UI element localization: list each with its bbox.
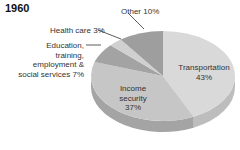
label-education-line2: training,	[18, 51, 84, 61]
label-transportation-value: 43%	[172, 73, 236, 83]
label-education: Education, training, employment & social…	[18, 41, 84, 79]
label-income-value: 37%	[110, 103, 156, 113]
label-income-name2: security	[110, 94, 156, 104]
label-education-line4: social services 7%	[18, 70, 84, 80]
label-education-line3: employment &	[18, 60, 84, 70]
label-other: Other 10%	[121, 7, 159, 17]
label-income-security: Income security 37%	[110, 84, 156, 113]
label-income-name1: Income	[110, 84, 156, 94]
label-health-care: Health care 3%	[50, 26, 105, 36]
label-transportation-name: Transportation	[172, 63, 236, 73]
label-transportation: Transportation 43%	[172, 63, 236, 82]
label-education-line1: Education,	[18, 41, 84, 51]
